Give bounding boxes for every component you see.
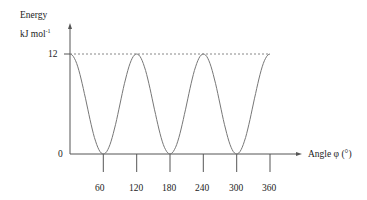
energy-plot: [0, 0, 367, 200]
energy-curve: [70, 54, 270, 154]
y-axis-arrow-icon: [68, 23, 72, 29]
x-axis-arrow-icon: [296, 152, 302, 156]
x-ticks: [103, 154, 270, 172]
